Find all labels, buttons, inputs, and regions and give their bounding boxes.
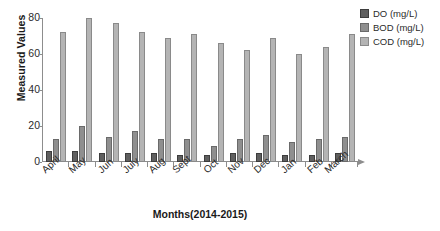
bar-group-bars bbox=[201, 18, 227, 162]
legend-item-label: COD (mg/L) bbox=[373, 36, 424, 47]
bar bbox=[244, 50, 250, 162]
y-axis-tick-label: 80 bbox=[16, 12, 40, 23]
plot-area bbox=[42, 18, 358, 162]
x-axis-label-slot: Aug bbox=[148, 164, 174, 206]
x-axis-label-slot: April bbox=[43, 164, 69, 206]
y-axis-tick-label: 20 bbox=[16, 120, 40, 131]
legend-swatch-icon bbox=[360, 37, 369, 46]
y-axis-tick-label: 0 bbox=[16, 156, 40, 167]
bar bbox=[113, 23, 119, 162]
y-axis-tick-mark bbox=[38, 54, 42, 55]
bar bbox=[218, 43, 224, 162]
x-axis-arrow-icon bbox=[358, 159, 365, 165]
legend: DO (mg/L)BOD (mg/L)COD (mg/L) bbox=[360, 8, 440, 50]
bar-group bbox=[148, 18, 174, 162]
bar-group-bars bbox=[174, 18, 200, 162]
bar bbox=[60, 32, 66, 162]
bar bbox=[323, 47, 329, 162]
y-axis-tick-mark bbox=[38, 162, 42, 163]
bar bbox=[165, 38, 171, 162]
bar-group-bars bbox=[227, 18, 253, 162]
bar-group-bars bbox=[69, 18, 95, 162]
x-axis-label-slot: Dec bbox=[253, 164, 279, 206]
legend-item-label: BOD (mg/L) bbox=[373, 22, 424, 33]
bar-group bbox=[279, 18, 305, 162]
x-axis-label-slot: March bbox=[332, 164, 358, 206]
bar-group bbox=[96, 18, 122, 162]
bar-group-bars bbox=[122, 18, 148, 162]
bar-group bbox=[174, 18, 200, 162]
bar-group bbox=[201, 18, 227, 162]
bar-group bbox=[227, 18, 253, 162]
y-axis-tick-label: 60 bbox=[16, 48, 40, 59]
y-axis-tick-mark bbox=[38, 126, 42, 127]
bar bbox=[270, 38, 276, 162]
x-axis-tick-labels: AprilMayJunJulyAugSeptOctNovDecJanFebMar… bbox=[43, 164, 358, 206]
x-axis-title: Months(2014-2015) bbox=[42, 208, 358, 220]
bar bbox=[349, 34, 355, 162]
bar-group-bars bbox=[96, 18, 122, 162]
bar-chart: Measured Values 020406080 AprilMayJunJul… bbox=[0, 0, 440, 231]
y-axis-tick-mark bbox=[38, 90, 42, 91]
legend-item[interactable]: DO (mg/L) bbox=[360, 8, 440, 19]
bar-group bbox=[43, 18, 69, 162]
bar-group-bars bbox=[306, 18, 332, 162]
bar-group-bars bbox=[279, 18, 305, 162]
x-axis-label-slot: Jan bbox=[279, 164, 305, 206]
bar-group bbox=[332, 18, 358, 162]
legend-item-label: DO (mg/L) bbox=[373, 8, 417, 19]
x-axis-label-slot: July bbox=[122, 164, 148, 206]
bar-group-bars bbox=[43, 18, 69, 162]
bar-groups bbox=[43, 18, 358, 162]
bar bbox=[191, 34, 197, 162]
x-axis-label-slot: Nov bbox=[227, 164, 253, 206]
bar-group-bars bbox=[332, 18, 358, 162]
bar-group bbox=[69, 18, 95, 162]
legend-item[interactable]: BOD (mg/L) bbox=[360, 22, 440, 33]
bar-group bbox=[253, 18, 279, 162]
bar bbox=[296, 54, 302, 162]
y-axis-tick-labels: 020406080 bbox=[16, 0, 40, 231]
legend-swatch-icon bbox=[360, 9, 369, 18]
legend-swatch-icon bbox=[360, 23, 369, 32]
legend-item[interactable]: COD (mg/L) bbox=[360, 36, 440, 47]
x-axis-label-slot: Oct bbox=[201, 164, 227, 206]
bar-group-bars bbox=[148, 18, 174, 162]
x-axis-label-slot: Jun bbox=[96, 164, 122, 206]
bar-group bbox=[122, 18, 148, 162]
y-axis-tick-label: 40 bbox=[16, 84, 40, 95]
bar bbox=[86, 18, 92, 162]
bar-group-bars bbox=[253, 18, 279, 162]
bar-group bbox=[306, 18, 332, 162]
x-axis-label-slot: Sept bbox=[174, 164, 200, 206]
y-axis-tick-mark bbox=[38, 18, 42, 19]
bar bbox=[139, 32, 145, 162]
x-axis-label-slot: May bbox=[69, 164, 95, 206]
